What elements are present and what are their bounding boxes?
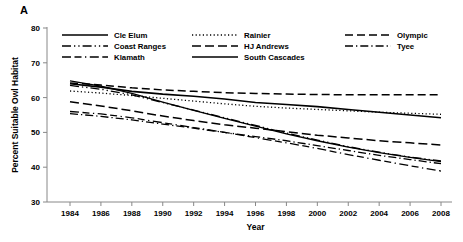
legend-label-south-cascades: South Cascades xyxy=(244,53,305,62)
legend-label-cle-elum: Cle Elum xyxy=(114,31,147,40)
x-tick-label: 1998 xyxy=(278,209,296,218)
x-tick-label: 1992 xyxy=(185,209,203,218)
y-tick-label: 70 xyxy=(31,59,40,68)
x-axis-title: Year xyxy=(247,222,266,232)
y-tick-label: 30 xyxy=(31,198,40,207)
legend-label-tyee: Tyee xyxy=(397,42,415,51)
series-line-south-cascades xyxy=(70,84,441,118)
series-line-hj-andrews xyxy=(70,102,441,145)
x-tick-label: 2006 xyxy=(401,209,419,218)
series-line-olympic xyxy=(70,83,441,95)
x-tick-label: 1994 xyxy=(216,209,234,218)
x-tick-label: 2000 xyxy=(308,209,326,218)
y-tick-label: 50 xyxy=(31,128,40,137)
x-tick-label: 2008 xyxy=(432,209,450,218)
x-tick-label: 1984 xyxy=(61,209,79,218)
owl-habitat-line-chart: 3040506070801984198619881990199219941996… xyxy=(0,0,463,242)
y-axis-title: Percent Suitable Owl Habitat xyxy=(10,57,20,173)
series-line-coast-ranges xyxy=(70,85,441,161)
y-tick-label: 80 xyxy=(31,24,40,33)
y-tick-label: 60 xyxy=(31,94,40,103)
y-tick-label: 40 xyxy=(31,163,40,172)
figure-panel-a: A 30405060708019841986198819901992199419… xyxy=(0,0,463,242)
legend-label-rainier: Rainier xyxy=(244,31,270,40)
legend-label-hj-andrews: HJ Andrews xyxy=(244,42,289,51)
x-tick-label: 2004 xyxy=(370,209,388,218)
x-tick-label: 1988 xyxy=(123,209,141,218)
x-tick-label: 1996 xyxy=(247,209,265,218)
x-tick-label: 1986 xyxy=(92,209,110,218)
series-line-tyee xyxy=(70,114,441,164)
legend-label-coast-ranges: Coast Ranges xyxy=(114,42,167,51)
legend-label-olympic: Olympic xyxy=(397,31,428,40)
legend-label-klamath: Klamath xyxy=(114,53,145,62)
x-tick-label: 1990 xyxy=(154,209,172,218)
x-tick-label: 2002 xyxy=(339,209,357,218)
